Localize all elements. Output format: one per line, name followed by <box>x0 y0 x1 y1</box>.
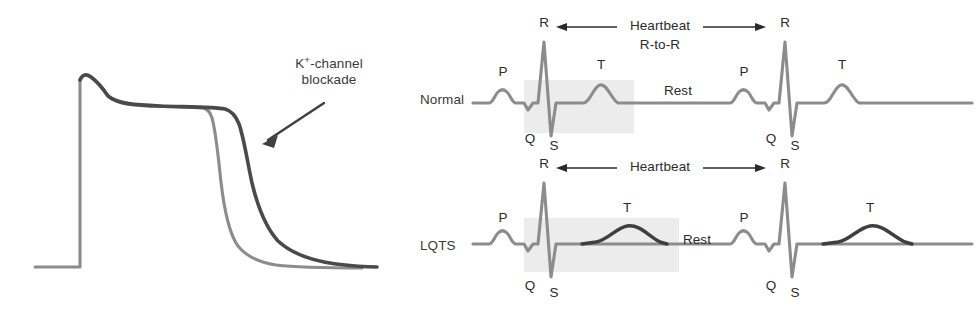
wave-letter-t-normal-2: T <box>838 57 846 72</box>
wave-letter-r-lqts-1: R <box>539 156 549 171</box>
k-channel-blockade-label: K+-channel blockade <box>268 56 390 88</box>
action-potential-panel: K+-channel blockade <box>0 0 420 321</box>
wave-letter-q-lqts-1: Q <box>525 278 536 293</box>
wave-letter-q-lqts-2: Q <box>766 278 777 293</box>
wave-letter-t-normal-1: T <box>597 57 605 72</box>
rest-label-lqts: Rest <box>683 232 711 247</box>
wave-letter-p-normal-2: P <box>739 64 748 79</box>
wave-letter-p-normal-1: P <box>498 64 507 79</box>
wave-letter-r-normal-2: R <box>780 15 790 30</box>
wave-letter-q-normal-1: Q <box>525 131 536 146</box>
wave-letter-s-lqts-2: S <box>790 285 799 300</box>
wave-letter-s-normal-1: S <box>549 138 558 153</box>
heartbeat-label-normal: Heartbeat <box>630 18 690 33</box>
wave-letter-t-lqts-1: T <box>623 200 631 215</box>
wave-letter-p-lqts-2: P <box>739 210 748 225</box>
rest-label-normal: Rest <box>664 83 692 98</box>
wave-letter-s-lqts-1: S <box>549 285 558 300</box>
blockade-label-line2: blockade <box>302 72 357 87</box>
wave-letter-t-lqts-2: T <box>866 200 874 215</box>
wave-letter-s-normal-2: S <box>790 138 799 153</box>
ecg-panel: Normal Heartbeat R-to-R Rest P R Q S T P… <box>420 0 980 321</box>
blockade-pointer-arrow <box>262 103 324 148</box>
heartbeat-label-lqts: Heartbeat <box>630 159 690 174</box>
blockade-label-line1: K+-channel <box>295 56 362 71</box>
figure-root: K+-channel blockade Normal Heartbeat R-t… <box>0 0 980 321</box>
normal-action-potential-curve <box>35 75 362 268</box>
lqts-t-wave-2 <box>823 226 912 244</box>
blocked-action-potential-curve <box>80 75 377 267</box>
ecg-normal-plot <box>420 0 980 160</box>
wave-letter-r-lqts-2: R <box>780 156 790 171</box>
wave-letter-q-normal-2: Q <box>766 131 777 146</box>
wave-letter-r-normal-1: R <box>539 15 549 30</box>
wave-letter-p-lqts-1: P <box>498 210 507 225</box>
action-potential-plot <box>0 0 420 321</box>
r-to-r-label-normal: R-to-R <box>640 37 680 52</box>
